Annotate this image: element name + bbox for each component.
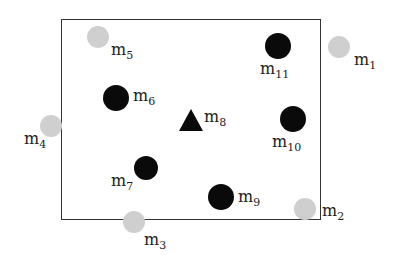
label-m5: m5 [111,42,133,61]
node-m2 [294,198,316,220]
node-m7 [134,156,158,180]
node-m1 [328,36,350,58]
label-m2: m2 [322,203,344,222]
label-m4: m4 [24,131,46,150]
node-m11 [265,33,291,59]
node-m5 [87,26,109,48]
node-m8-triangle [179,109,203,131]
label-m10: m10 [272,134,301,153]
label-m8: m8 [204,109,226,128]
node-m6 [103,85,129,111]
label-m7: m7 [111,173,133,192]
label-m1: m1 [354,52,376,71]
node-m3 [123,211,145,233]
label-m6: m6 [133,88,155,107]
node-m9 [208,184,234,210]
label-m9: m9 [238,189,260,208]
node-m10 [280,106,306,132]
label-m3: m3 [144,232,166,251]
label-m11: m11 [260,61,289,80]
